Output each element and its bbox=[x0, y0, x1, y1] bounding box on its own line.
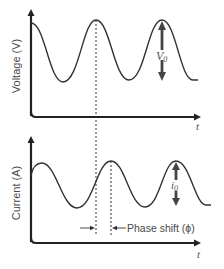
current-x-axis bbox=[31, 238, 196, 243]
voltage-waveform bbox=[31, 20, 198, 82]
current-x-axis-label: t bbox=[197, 248, 201, 260]
current-waveform bbox=[31, 161, 211, 208]
waveform-diagram: V0 Voltage (V) t i0 Current (A) t Phase … bbox=[0, 0, 224, 269]
voltage-x-axis bbox=[31, 112, 196, 117]
voltage-x-axis-label: t bbox=[196, 120, 200, 132]
voltage-panel: V0 Voltage (V) t bbox=[10, 9, 201, 132]
voltage-amplitude-label: V0 bbox=[156, 49, 167, 64]
current-x-axis-arrowhead bbox=[194, 240, 201, 247]
current-y-axis-label: Current (A) bbox=[10, 166, 22, 220]
phase-shift-label: Phase shift (ϕ) bbox=[127, 222, 195, 234]
current-amplitude-label: i0 bbox=[171, 179, 178, 193]
voltage-y-axis-arrowhead bbox=[28, 9, 35, 16]
current-y-axis-arrowhead bbox=[28, 136, 35, 143]
voltage-y-axis-label: Voltage (V) bbox=[10, 39, 22, 93]
